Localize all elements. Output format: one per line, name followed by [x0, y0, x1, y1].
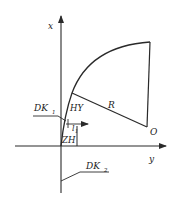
- hy-label: HY: [69, 103, 84, 113]
- dk1-label: DK: [33, 103, 49, 113]
- radius-line: [72, 93, 147, 127]
- zh-label: ZH: [61, 135, 76, 145]
- center-o-label: O: [150, 127, 158, 137]
- dk2-label: DK: [85, 161, 101, 171]
- dk2-leader-diagonal: [61, 172, 80, 181]
- dk1-subscript: 1: [52, 109, 56, 115]
- spiral-curve-diagram: x y HY R O ZH DK 1 l 1 DK 2: [0, 0, 177, 205]
- radius-label: R: [107, 100, 115, 110]
- y-axis-label: y: [148, 154, 155, 164]
- dk2-subscript: 2: [103, 167, 108, 173]
- l1-subscript: 1: [75, 128, 78, 134]
- x-axis-label: x: [48, 21, 53, 31]
- arc-end-to-center-line: [147, 42, 150, 127]
